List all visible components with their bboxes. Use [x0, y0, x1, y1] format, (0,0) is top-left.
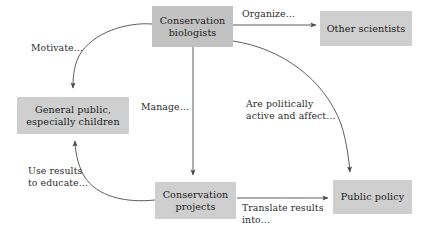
edge-label-use-results-to-educate: Use results to educate… [28, 165, 88, 190]
edge-label-organize: Organize… [242, 8, 295, 20]
edge-label-manage: Manage… [141, 101, 189, 113]
edge-label-politically-active: Are politically active and affect… [246, 98, 336, 123]
diagram-canvas: Conservation biologists Other scientists… [0, 0, 427, 237]
node-public-policy[interactable]: Public policy [333, 180, 412, 214]
node-other-scientists[interactable]: Other scientists [320, 11, 412, 46]
node-conservation-projects[interactable]: Conservation projects [155, 182, 236, 219]
node-conservation-biologists[interactable]: Conservation biologists [152, 6, 233, 47]
edge-motivate-line [73, 24, 152, 88]
node-general-public[interactable]: General public, especially children [17, 97, 129, 134]
edge-label-translate-results: Translate results into… [242, 202, 324, 227]
edge-label-motivate: Motivate… [31, 42, 83, 54]
